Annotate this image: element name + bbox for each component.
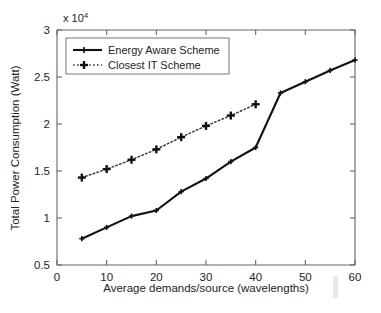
x-axis-title: Average demands/source (wavelengths): [103, 282, 309, 294]
y-tick-label: 2: [44, 118, 50, 130]
legend-label-energy-aware-scheme: Energy Aware Scheme: [108, 44, 220, 56]
scan-artifact: [333, 276, 338, 298]
x-tick-label: 60: [349, 271, 362, 283]
y-tick-label: 0.5: [34, 259, 50, 271]
legend-label-closest-it-scheme: Closest IT Scheme: [108, 59, 201, 71]
y-axis-title: Total Power Consumption (Watt): [9, 65, 21, 230]
x-tick-label: 0: [54, 271, 60, 283]
y-tick-label: 2.5: [34, 71, 50, 83]
figure-container: 0.511.522.53 0102030405060 x 104 Average…: [0, 0, 381, 313]
chart-svg: 0.511.522.53 0102030405060 x 104 Average…: [0, 0, 381, 313]
chart-legend: Energy Aware Scheme Closest IT Scheme: [66, 38, 229, 74]
y-tick-label: 1: [44, 212, 50, 224]
y-tick-label: 1.5: [34, 165, 50, 177]
y-tick-label: 3: [44, 24, 50, 36]
